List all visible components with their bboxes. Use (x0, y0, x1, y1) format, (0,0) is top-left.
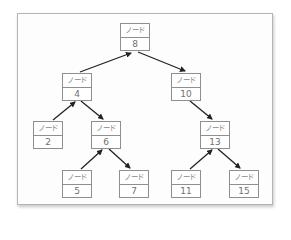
tree-node-15: ノード 15 (229, 170, 259, 198)
edge-5-to-6 (81, 150, 102, 169)
tree-node-4: ノード 4 (62, 73, 92, 101)
tree-node-8: ノード 8 (120, 23, 150, 51)
node-label: ノード (230, 171, 258, 185)
node-label: ノード (121, 24, 149, 38)
node-label: ノード (172, 74, 200, 88)
node-value: 8 (121, 38, 149, 51)
edge-4-to-6 (81, 101, 103, 119)
tree-node-10: ノード 10 (171, 73, 201, 101)
tree-node-13: ノード 13 (200, 121, 230, 149)
tree-node-7: ノード 7 (119, 170, 149, 198)
node-value: 11 (172, 185, 200, 198)
node-value: 10 (172, 88, 200, 101)
tree-node-5: ノード 5 (62, 170, 92, 198)
node-value: 2 (34, 136, 62, 149)
tree-node-11: ノード 11 (171, 170, 201, 198)
tree-node-6: ノード 6 (91, 121, 121, 149)
edge-8-to-10 (138, 52, 185, 71)
node-label: ノード (34, 122, 62, 136)
node-value: 6 (92, 136, 120, 149)
node-label: ノード (63, 171, 91, 185)
edge-11-to-13 (190, 150, 212, 169)
node-value: 15 (230, 185, 258, 198)
tree-node-2: ノード 2 (33, 121, 63, 149)
node-value: 7 (120, 185, 148, 198)
node-label: ノード (172, 171, 200, 185)
edge-6-to-7 (109, 149, 130, 168)
edge-13-to-15 (218, 149, 240, 168)
node-label: ノード (201, 122, 229, 136)
node-value: 4 (63, 88, 91, 101)
edge-4-to-8 (80, 53, 131, 72)
node-label: ノード (120, 171, 148, 185)
node-label: ノード (63, 74, 91, 88)
node-value: 5 (63, 185, 91, 198)
node-label: ノード (92, 122, 120, 136)
node-value: 13 (201, 136, 229, 149)
edge-2-to-4 (53, 102, 75, 120)
edge-10-to-13 (190, 101, 212, 119)
